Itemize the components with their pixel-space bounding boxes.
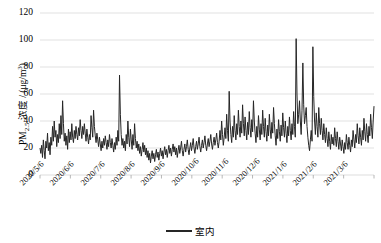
legend-line-swatch-indoor <box>166 230 192 232</box>
y-axis-tick-label: 80 <box>3 62 33 72</box>
y-axis-tick-label: 20 <box>3 143 33 153</box>
chart-legend: 室内 <box>0 224 381 238</box>
y-axis-label: PM2.5 浓度 / (μg/m3) <box>15 34 31 174</box>
y-axis-tick-label: 120 <box>3 8 33 18</box>
y-axis-tick-label: 60 <box>3 89 33 99</box>
y-axis-tick-label: 40 <box>3 116 33 126</box>
plot-area <box>0 0 381 243</box>
pm25-time-series-chart: PM2.5 浓度 / (μg/m3) 020406080100120 2020/… <box>0 0 381 243</box>
y-axis-tick-label: 100 <box>3 35 33 45</box>
legend-label-indoor: 室内 <box>195 227 215 237</box>
data-line-indoor <box>40 39 374 163</box>
